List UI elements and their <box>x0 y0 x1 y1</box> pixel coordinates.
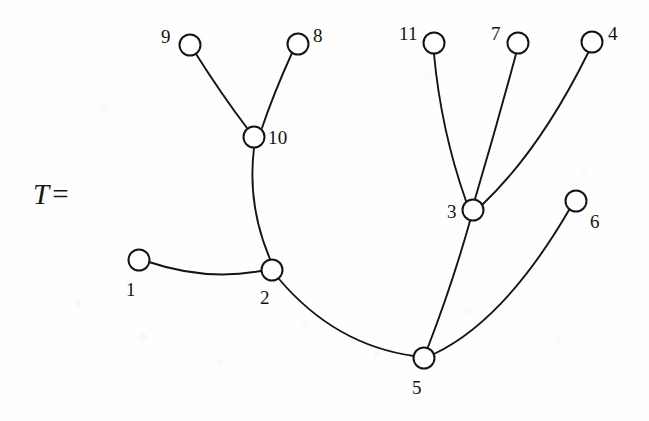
tree-node-7[interactable] <box>508 33 529 54</box>
tree-edge <box>262 53 292 128</box>
tree-node-label-11: 11 <box>399 24 418 43</box>
tree-edge <box>196 54 247 128</box>
tree-node-label-5: 5 <box>412 378 422 397</box>
tree-edge <box>434 54 466 201</box>
tree-node-8[interactable] <box>288 34 309 55</box>
tree-node-label-6: 6 <box>590 212 600 231</box>
tree-graph-canvas <box>0 0 649 421</box>
tree-node-1[interactable] <box>129 250 150 271</box>
tree-node-label-8: 8 <box>313 26 323 45</box>
tree-node-6[interactable] <box>566 191 587 212</box>
tree-node-11[interactable] <box>424 33 445 54</box>
tree-node-9[interactable] <box>180 35 201 56</box>
tree-node-label-1: 1 <box>126 280 136 299</box>
tree-node-5[interactable] <box>414 348 435 369</box>
tree-edge <box>475 54 516 199</box>
tree-node-label-10: 10 <box>268 128 288 147</box>
tree-node-label-9: 9 <box>161 27 171 46</box>
tree-node-2[interactable] <box>262 260 283 281</box>
tree-edge <box>279 279 414 356</box>
tree-edge <box>428 221 470 347</box>
tree-node-label-7: 7 <box>491 24 501 43</box>
tree-edge <box>434 210 569 354</box>
tree-node-label-2: 2 <box>260 288 270 307</box>
edges-group <box>149 53 588 356</box>
tree-edge <box>149 262 261 274</box>
tree-node-4[interactable] <box>582 32 603 53</box>
tree-node-label-4: 4 <box>608 24 618 43</box>
tree-edge <box>252 148 270 259</box>
nodes-group <box>129 32 603 369</box>
tree-figure: T= 1234567891011 <box>0 0 649 421</box>
tree-node-10[interactable] <box>244 127 265 148</box>
tree-edge <box>482 53 588 205</box>
tree-node-3[interactable] <box>463 200 484 221</box>
tree-node-label-3: 3 <box>447 202 457 221</box>
